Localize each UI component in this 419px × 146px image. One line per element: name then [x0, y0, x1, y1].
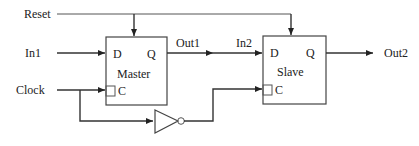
- out1-label: Out1: [176, 36, 200, 50]
- slave-q-pin: Q: [306, 46, 315, 60]
- master-c-pin: C: [118, 84, 126, 98]
- reset-label: Reset: [24, 7, 51, 21]
- master-block: D Q Master C: [106, 37, 167, 105]
- reset-wire: [57, 14, 291, 36]
- slave-c-pin: C: [275, 83, 283, 97]
- slave-block: D Q Slave C: [263, 36, 326, 104]
- master-q-pin: Q: [147, 47, 156, 61]
- inverted-clock-wire: [184, 89, 262, 121]
- out2-label: Out2: [384, 46, 408, 60]
- slave-d-pin: D: [270, 46, 279, 60]
- master-d-pin: D: [113, 47, 122, 61]
- clock-label: Clock: [16, 83, 45, 97]
- inverter-icon: [155, 110, 184, 133]
- in1-label: In1: [25, 46, 41, 60]
- in2-label: In2: [236, 36, 252, 50]
- master-label: Master: [117, 67, 150, 81]
- slave-label: Slave: [277, 65, 304, 79]
- flip-flop-diagram: Reset In1 Clock D Q Master C Out1 In2 D: [0, 0, 419, 146]
